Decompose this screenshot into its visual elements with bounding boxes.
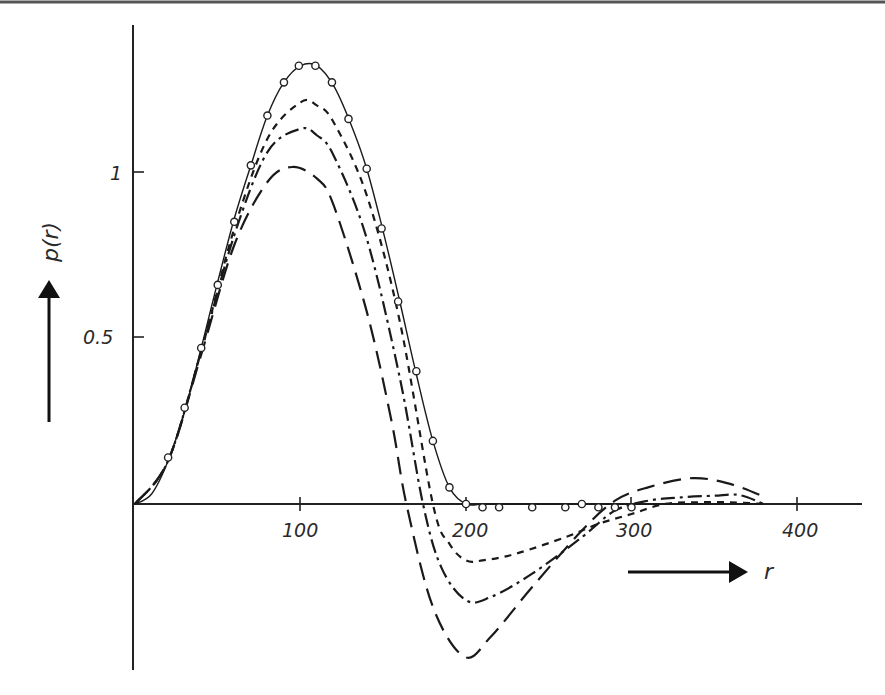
data-point-marker [395, 298, 402, 305]
data-point-marker [312, 62, 319, 69]
data-markers-group [165, 62, 636, 511]
data-point-marker [611, 504, 618, 511]
y-tick-label-1: 1 [110, 162, 122, 184]
data-point-marker [413, 368, 420, 375]
y-arrow-icon [38, 280, 60, 422]
data-point-marker [446, 484, 453, 491]
data-point-marker [198, 344, 205, 351]
curves-group [135, 63, 766, 657]
data-point-marker [529, 504, 536, 511]
data-point-marker [429, 437, 436, 444]
data-point-marker [345, 115, 352, 122]
data-point-marker [295, 62, 302, 69]
data-point-marker [231, 218, 238, 225]
data-point-marker [496, 504, 503, 511]
data-point-marker [378, 225, 385, 232]
data-point-marker [280, 79, 287, 86]
y-axis-label: p(r) [38, 222, 63, 263]
data-point-marker [165, 454, 172, 461]
data-point-marker [363, 165, 370, 172]
data-point-marker [479, 504, 486, 511]
curve-dash-dot [135, 128, 764, 603]
data-point-marker [595, 504, 602, 511]
x-tick-label-400: 400 [782, 519, 818, 541]
x-tick-label-300: 300 [616, 519, 652, 541]
data-point-marker [181, 404, 188, 411]
data-point-marker [214, 281, 221, 288]
x-tick-label-100: 100 [282, 519, 318, 541]
data-point-marker [562, 504, 569, 511]
curve-short-dash [135, 100, 764, 562]
x-arrow-icon [628, 561, 748, 583]
x-tick-label-200: 200 [452, 519, 488, 541]
x-axis-label: r [764, 559, 775, 584]
data-point-marker [462, 500, 469, 507]
chart-plot: 1 0.5 100 200 300 400 p(r) r [0, 0, 885, 695]
data-point-marker [328, 79, 335, 86]
data-point-marker [578, 500, 585, 507]
data-point-marker [264, 112, 271, 119]
data-point-marker [628, 504, 635, 511]
curve-solid [135, 63, 764, 505]
y-tick-label-0.5: 0.5 [83, 326, 113, 348]
data-point-marker [247, 162, 254, 169]
